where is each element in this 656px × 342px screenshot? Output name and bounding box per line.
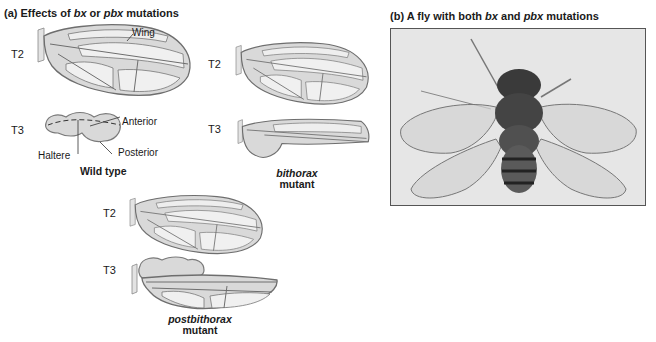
wild-type-t3-label: T3 <box>11 124 24 136</box>
bithorax-t2-wing <box>236 42 376 112</box>
caption-text: mutant <box>280 178 315 190</box>
wild-type-t2-wing <box>38 24 198 104</box>
title-text: (b) A fly with both <box>390 10 485 22</box>
gene-bx: bx <box>485 10 498 22</box>
anterior-label: Anterior <box>122 116 157 127</box>
wing-label: Wing <box>132 27 155 38</box>
four-winged-fly-image <box>391 29 645 205</box>
haltere-label: Haltere <box>38 150 70 161</box>
bithorax-t2-label: T2 <box>208 58 221 70</box>
postbithorax-t3-label: T3 <box>103 264 116 276</box>
title-text: (a) Effects of <box>4 7 74 19</box>
wing-pointer-line <box>125 33 135 43</box>
panel-a-title: (a) Effects of bx or pbx mutations <box>4 7 179 19</box>
fly-photo <box>390 28 646 206</box>
wild-type-caption: Wild type <box>80 166 127 177</box>
title-text: and <box>498 10 524 22</box>
wild-type-t2-label: T2 <box>11 48 24 60</box>
bithorax-t3-label: T3 <box>208 123 221 135</box>
title-text: mutations <box>123 7 179 19</box>
bithorax-caption: bithorax mutant <box>267 168 327 190</box>
gene-pbx: pbx <box>524 10 544 22</box>
panel-b-title: (b) A fly with both bx and pbx mutations <box>390 10 599 22</box>
caption-text: mutant <box>183 324 218 336</box>
title-text: mutations <box>543 10 599 22</box>
gene-pbx: pbx <box>104 7 124 19</box>
postbithorax-t2-label: T2 <box>103 207 116 219</box>
posterior-label: Posterior <box>118 147 158 158</box>
bithorax-t3-wing <box>238 118 378 168</box>
postbithorax-caption: postbithorax mutant <box>160 314 240 336</box>
title-text: or <box>87 7 104 19</box>
postbithorax-t2-wing <box>130 195 270 265</box>
gene-bx: bx <box>74 7 87 19</box>
